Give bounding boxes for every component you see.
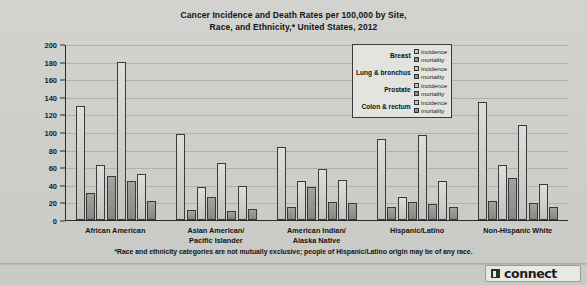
bar	[348, 203, 357, 220]
y-axis-tick-label: 80	[49, 146, 57, 155]
bar	[498, 165, 507, 220]
legend-key: incidence	[414, 99, 448, 106]
bar	[438, 181, 447, 220]
y-axis-tick-label: 180	[44, 58, 57, 67]
bar	[197, 187, 206, 220]
y-axis-tick-label: 200	[44, 41, 57, 50]
bar	[127, 181, 136, 220]
bar	[508, 178, 517, 220]
chart-legend: BreastincidencemortalityLung & bronchusi…	[352, 44, 452, 118]
bar	[338, 180, 347, 220]
x-axis-label: African American	[65, 226, 166, 246]
connect-logo-text: connect	[504, 266, 557, 281]
x-axis-label-line: Hispanic/Latino	[367, 226, 468, 236]
x-axis-labels: African AmericanAsian American/Pacific I…	[65, 226, 568, 246]
legend-keys: incidencemortality	[414, 48, 448, 63]
y-axis-tick-label: 120	[44, 111, 57, 120]
x-axis-label-line: Alaska Native	[266, 236, 367, 246]
legend-key-label: mortality	[421, 107, 444, 114]
x-axis-label-line: Non-Hispanic White	[467, 226, 568, 236]
legend-key: incidence	[414, 48, 448, 55]
bar	[529, 203, 538, 220]
legend-row: Breastincidencemortality	[356, 48, 447, 63]
legend-key-label: incidence	[421, 82, 447, 89]
page-title: Cancer Incidence and Death Rates per 100…	[0, 10, 587, 33]
bar-group	[66, 45, 166, 220]
y-axis-tick-label: 60	[49, 164, 57, 173]
bar	[518, 125, 527, 220]
legend-key: mortality	[414, 107, 448, 114]
legend-site-label: Lung & bronchus	[356, 69, 411, 76]
bar	[277, 147, 286, 220]
bar	[488, 201, 497, 220]
bar-chart: 020406080100120140160180200	[20, 45, 568, 221]
footnote: *Race and ethnicity categories are not m…	[0, 248, 587, 255]
bar	[147, 201, 156, 220]
bar	[76, 106, 85, 220]
x-axis-label: Hispanic/Latino	[367, 226, 468, 246]
y-axis-tick-label: 40	[49, 181, 57, 190]
bar	[227, 211, 236, 220]
bar	[96, 165, 105, 220]
bar-group	[166, 45, 266, 220]
bar	[539, 184, 548, 220]
legend-keys: incidencemortality	[414, 99, 448, 114]
y-axis-tick-label: 20	[49, 199, 57, 208]
legend-swatch-incidence-icon	[414, 66, 419, 71]
title-line-1: Cancer Incidence and Death Rates per 100…	[0, 10, 587, 22]
legend-site-label: Colon & rectum	[361, 103, 410, 110]
bar	[297, 181, 306, 220]
x-axis-label: American Indian/Alaska Native	[266, 226, 367, 246]
bar	[478, 102, 487, 220]
legend-key-label: incidence	[421, 99, 447, 106]
bar	[318, 169, 327, 220]
legend-swatch-incidence-icon	[414, 100, 419, 105]
legend-swatch-incidence-icon	[414, 83, 419, 88]
bar	[428, 204, 437, 220]
legend-swatch-incidence-icon	[414, 49, 419, 54]
bar	[377, 139, 386, 220]
bar	[418, 135, 427, 220]
bar	[207, 197, 216, 220]
legend-site-label: Breast	[390, 52, 411, 59]
legend-row: Lung & bronchusincidencemortality	[356, 65, 447, 80]
title-line-2: Race, and Ethnicity,* United States, 201…	[0, 22, 587, 34]
bar-groups	[66, 45, 568, 220]
legend-swatch-mortality-icon	[414, 108, 419, 113]
bar	[86, 193, 95, 220]
bar	[137, 174, 146, 220]
legend-key: incidence	[414, 82, 448, 89]
legend-row: Colon & rectumincidencemortality	[356, 99, 447, 114]
bar	[248, 209, 257, 220]
legend-key: mortality	[414, 90, 448, 97]
legend-swatch-mortality-icon	[414, 57, 419, 62]
bar	[307, 187, 316, 220]
bar	[107, 176, 116, 220]
y-axis-tick-label: 0	[53, 217, 57, 226]
bar	[287, 207, 296, 220]
legend-row: Prostateincidencemortality	[356, 82, 447, 97]
y-axis: 020406080100120140160180200	[20, 45, 65, 221]
legend-key-label: mortality	[421, 90, 444, 97]
bar	[449, 207, 458, 220]
legend-key: incidence	[414, 65, 448, 72]
legend-key-label: incidence	[421, 48, 447, 55]
x-axis-label-line: Pacific Islander	[166, 236, 267, 246]
bar	[117, 62, 126, 220]
legend-key-label: mortality	[421, 73, 444, 80]
legend-key: mortality	[414, 73, 448, 80]
bar	[408, 202, 417, 220]
x-axis-label-line: Asian American/	[166, 226, 267, 236]
bar	[238, 186, 247, 220]
chart-page: Cancer Incidence and Death Rates per 100…	[0, 0, 587, 285]
x-axis-label-line: African American	[65, 226, 166, 236]
bar	[387, 207, 396, 220]
legend-key-label: mortality	[421, 56, 444, 63]
x-axis-label: Asian American/Pacific Islander	[166, 226, 267, 246]
plot-area	[65, 45, 568, 221]
legend-key-label: incidence	[421, 65, 447, 72]
connect-logo[interactable]: connect	[485, 265, 581, 282]
legend-keys: incidencemortality	[414, 82, 448, 97]
bar	[328, 202, 337, 220]
legend-key: mortality	[414, 56, 448, 63]
